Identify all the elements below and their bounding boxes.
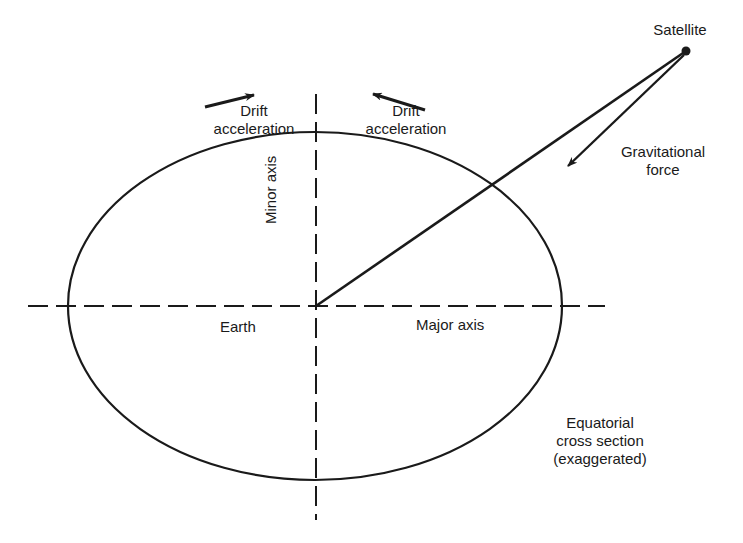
gravitational-force-label: Gravitational force [598, 143, 728, 179]
satellite-label: Satellite [640, 21, 720, 39]
caption-line1: Equatorial [540, 414, 660, 432]
drift-right-line1: Drift [358, 102, 454, 120]
minor-axis-label: Minor axis [262, 156, 280, 224]
drift-acceleration-right-label: Drift acceleration [358, 102, 454, 138]
caption-line2: cross section [540, 432, 660, 450]
drift-right-line2: acceleration [358, 120, 454, 138]
caption-line3: (exaggerated) [540, 450, 660, 468]
earth-label: Earth [220, 318, 256, 336]
drift-left-line1: Drift [206, 102, 302, 120]
satellite-icon [682, 47, 691, 56]
grav-line2: force [598, 161, 728, 179]
grav-line1: Gravitational [598, 143, 728, 161]
drift-left-line2: acceleration [206, 120, 302, 138]
drift-acceleration-left-label: Drift acceleration [206, 102, 302, 138]
caption-label: Equatorial cross section (exaggerated) [540, 414, 660, 468]
major-axis-label: Major axis [416, 316, 484, 334]
